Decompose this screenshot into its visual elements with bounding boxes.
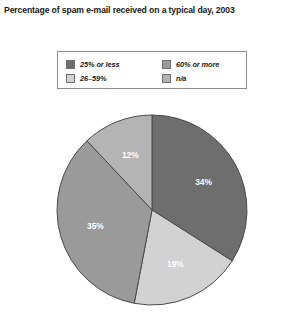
pie-slice-label-n-a: 12% bbox=[122, 150, 139, 160]
pie-slice-label-60-or-more: 35% bbox=[87, 221, 104, 231]
pie-chart: 34%19%35%12% bbox=[0, 0, 305, 324]
pie-slice-group bbox=[57, 115, 247, 305]
pie-slice-label-25-or-less: 34% bbox=[195, 177, 212, 187]
pie-slice-label-26-59: 19% bbox=[167, 259, 184, 269]
